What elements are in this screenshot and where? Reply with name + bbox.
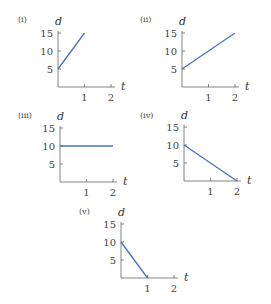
- chart-panel-2: (ii)td1251015: [140, 15, 250, 103]
- x-tick-label: 2: [232, 92, 238, 103]
- y-tick-label: 10: [103, 237, 116, 248]
- data-line: [182, 33, 235, 69]
- y-tick-label: 10: [40, 46, 53, 57]
- y-tick-label: 15: [40, 28, 53, 39]
- x-tick-label: 1: [83, 187, 89, 198]
- y-tick-label: 5: [110, 255, 116, 266]
- y-tick-label: 10: [164, 46, 177, 57]
- y-axis-label: d: [179, 15, 186, 28]
- y-tick-label: 15: [164, 28, 177, 39]
- x-tick-label: 2: [110, 187, 116, 198]
- panel-label: (iv): [140, 111, 153, 120]
- x-axis-label: t: [121, 80, 126, 93]
- x-tick-label: 2: [108, 92, 114, 103]
- panel-label: (i): [18, 15, 27, 24]
- y-tick-label: 15: [103, 219, 116, 230]
- x-tick-label: 1: [205, 92, 211, 103]
- y-tick-label: 5: [171, 64, 177, 75]
- x-axis-label: t: [245, 80, 250, 93]
- chart-panel-3: (iii)td1251015: [18, 110, 128, 198]
- y-axis-label: d: [55, 15, 62, 28]
- y-axis-label: d: [118, 206, 125, 219]
- x-axis-label: t: [184, 271, 189, 284]
- y-tick-label: 15: [42, 123, 55, 134]
- chart-panel-5: (v)td1251015: [79, 206, 189, 294]
- chart-panel-4: (iv)td1251015: [140, 109, 252, 197]
- y-axis-label: d: [181, 109, 188, 122]
- y-tick-label: 5: [49, 159, 55, 170]
- y-tick-label: 15: [166, 122, 179, 133]
- x-tick-label: 1: [207, 186, 213, 197]
- y-tick-label: 5: [47, 64, 53, 75]
- panel-label: (v): [79, 207, 90, 216]
- y-tick-label: 10: [42, 141, 55, 152]
- chart-grid: (i)td1251015(ii)td1251015(iii)td1251015(…: [0, 0, 271, 304]
- panel-label: (iii): [18, 111, 32, 120]
- y-tick-label: 5: [173, 158, 179, 169]
- x-tick-label: 1: [81, 92, 87, 103]
- x-tick-label: 2: [171, 283, 177, 294]
- data-line: [58, 33, 85, 69]
- x-tick-label: 1: [144, 283, 150, 294]
- panel-label: (ii): [140, 15, 151, 24]
- y-tick-label: 10: [166, 140, 179, 151]
- chart-panel-1: (i)td1251015: [18, 15, 126, 103]
- y-axis-label: d: [57, 110, 64, 123]
- x-axis-label: t: [123, 175, 128, 188]
- x-axis-label: t: [247, 174, 252, 187]
- data-line: [121, 242, 148, 278]
- data-line: [184, 145, 237, 181]
- x-tick-label: 2: [234, 186, 240, 197]
